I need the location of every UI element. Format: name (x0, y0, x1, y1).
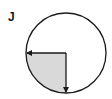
circle-diagram (0, 0, 112, 99)
